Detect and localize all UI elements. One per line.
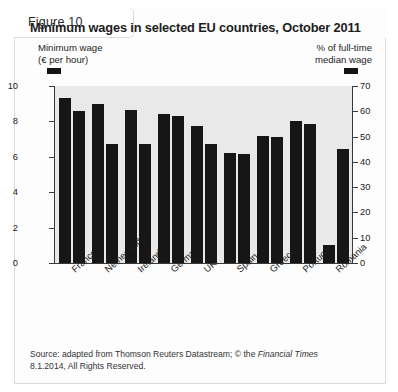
- left-axis-tick: [49, 121, 54, 122]
- chart-title: Minimum wages in selected EU countries, …: [30, 20, 374, 35]
- right-axis-tick-label: 30: [360, 183, 370, 192]
- left-axis-line: [54, 86, 55, 264]
- source-publication: Financial Times: [258, 349, 318, 359]
- left-axis-legend: Minimum wage (€ per hour): [38, 42, 103, 74]
- right-axis-tick: [353, 212, 358, 213]
- right-axis-tick: [353, 238, 358, 239]
- bar-median-wage-pct: [238, 154, 250, 263]
- right-axis-legend-line2: median wage: [315, 54, 372, 66]
- left-axis-tick-label: 4: [13, 188, 18, 197]
- left-axis-tick: [49, 157, 54, 158]
- figure-card: Figure 10 Minimum wages in selected EU c…: [14, 8, 386, 384]
- right-axis-tick-label: 40: [360, 158, 370, 167]
- bar-median-wage-pct: [271, 137, 283, 263]
- median-wage-swatch-icon: [344, 68, 358, 74]
- right-axis-tick: [353, 263, 358, 264]
- left-axis-legend-line1: Minimum wage: [38, 42, 103, 54]
- right-axis-tick-label: 70: [360, 82, 370, 91]
- bar-median-wage-pct: [172, 116, 184, 263]
- left-axis-tick-label: 0: [13, 259, 18, 268]
- source-note: Source: adapted from Thomson Reuters Dat…: [30, 349, 372, 372]
- bar-minimum-wage: [158, 114, 170, 263]
- source-line1-text: Source: adapted from Thomson Reuters Dat…: [30, 349, 258, 359]
- bar-minimum-wage: [290, 121, 302, 263]
- right-axis-legend-line1: % of full-time: [315, 42, 372, 54]
- right-axis-tick: [353, 162, 358, 163]
- left-axis-tick: [49, 86, 54, 87]
- right-axis-tick-label: 20: [360, 208, 370, 217]
- right-axis-tick: [353, 187, 358, 188]
- right-axis-tick: [353, 111, 358, 112]
- left-axis-tick: [49, 263, 54, 264]
- bar-minimum-wage: [59, 98, 71, 263]
- right-axis-tick: [353, 86, 358, 87]
- bar-median-wage-pct: [106, 144, 118, 263]
- right-axis-tick-label: 0: [360, 259, 365, 268]
- right-axis-tick: [353, 137, 358, 138]
- left-axis-tick: [49, 192, 54, 193]
- bar-minimum-wage: [92, 104, 104, 263]
- left-axis-tick-label: 10: [8, 82, 18, 91]
- left-axis-tick: [49, 228, 54, 229]
- left-axis-legend-line2: (€ per hour): [38, 54, 103, 66]
- right-axis-tick-label: 60: [360, 107, 370, 116]
- right-axis-tick-label: 50: [360, 133, 370, 142]
- left-axis-tick-label: 2: [13, 224, 18, 233]
- bar-median-wage-pct: [304, 124, 316, 263]
- right-axis-legend: % of full-time median wage: [315, 42, 372, 74]
- bar-minimum-wage: [257, 136, 269, 263]
- bar-median-wage-pct: [205, 144, 217, 263]
- chart-container: Minimum wages in selected EU countries, …: [14, 8, 386, 354]
- bar-median-wage-pct: [337, 149, 349, 263]
- minimum-wage-swatch-icon: [47, 68, 61, 74]
- bar-minimum-wage: [224, 153, 236, 263]
- left-axis-tick-label: 8: [13, 117, 18, 126]
- bar-median-wage-pct: [73, 111, 85, 263]
- source-line2-text: 8.1.2014, All Rights Reserved.: [30, 361, 146, 371]
- left-axis-tick-label: 6: [13, 153, 18, 162]
